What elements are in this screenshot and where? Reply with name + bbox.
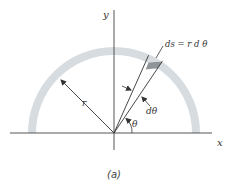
dtheta-arrow-left [122, 86, 131, 90]
x-axis-label: x [217, 137, 223, 148]
ds-equation-label: ds = r d θ [165, 39, 207, 49]
figure-caption: (a) [107, 169, 121, 180]
radius-label: r [82, 98, 87, 108]
semicircle-arc-diagram: y x r θ dθ ds = r d θ (a) [0, 0, 234, 184]
dtheta-arrow-right [142, 97, 150, 106]
ds-leader-line [156, 46, 163, 58]
dtheta-label: dθ [146, 106, 158, 116]
radial-line-inner [114, 61, 162, 133]
theta-label: θ [132, 119, 138, 129]
y-axis-label: y [102, 9, 109, 20]
radius-arrow [61, 80, 114, 133]
